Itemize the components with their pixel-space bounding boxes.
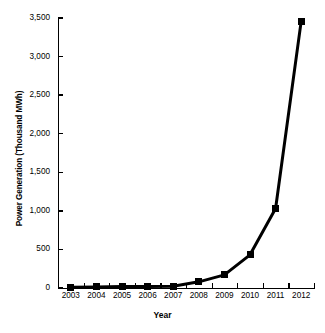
x-tick-label: 2012 [286, 291, 316, 300]
line-chart: Power Generation (Thousand MWh) 05001,00… [0, 0, 325, 333]
x-tick-mark [314, 283, 315, 288]
y-tick-label: 0 [16, 283, 50, 292]
x-tick-mark [263, 283, 264, 288]
data-point-marker [119, 283, 126, 290]
y-tick-mark [58, 249, 63, 250]
x-tick-mark [186, 283, 187, 288]
y-tick-mark [58, 56, 63, 57]
y-tick-label: 2,500 [16, 90, 50, 99]
data-point-marker [221, 271, 228, 278]
x-tick-mark [109, 283, 110, 288]
x-tick-mark [58, 283, 59, 288]
data-point-marker [67, 284, 74, 291]
x-tick-mark [288, 283, 289, 288]
x-tick-mark [84, 283, 85, 288]
y-tick-label: 2,000 [16, 129, 50, 138]
x-axis-title: Year [0, 310, 325, 320]
x-tick-mark [237, 283, 238, 288]
data-point-marker [93, 283, 100, 290]
data-point-marker [272, 205, 279, 212]
y-tick-label: 3,500 [16, 13, 50, 22]
y-tick-mark [58, 133, 63, 134]
y-tick-mark [58, 210, 63, 211]
y-tick-mark [58, 17, 63, 18]
y-tick-label: 1,000 [16, 206, 50, 215]
x-tick-mark [135, 283, 136, 288]
data-point-marker [247, 251, 254, 258]
data-point-marker [298, 18, 305, 25]
y-tick-mark [58, 94, 63, 95]
y-axis-title: Power Generation (Thousand MWh) [15, 59, 24, 259]
x-tick-mark [212, 283, 213, 288]
y-tick-label: 500 [16, 244, 50, 253]
y-tick-mark [58, 172, 63, 173]
y-tick-label: 1,500 [16, 167, 50, 176]
data-point-marker [144, 283, 151, 290]
data-point-marker [170, 283, 177, 290]
y-tick-label: 3,000 [16, 52, 50, 61]
data-point-marker [195, 278, 202, 285]
x-tick-mark [160, 283, 161, 288]
